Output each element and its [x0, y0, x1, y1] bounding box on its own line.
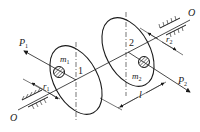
- spacing-ext-left: [100, 98, 122, 110]
- radius-r2-label: r2: [166, 34, 173, 45]
- rotor-diagram: O O 1 2 P1 m1 r1 P2 m2 r2 l: [0, 0, 200, 132]
- force-p1-arrow: [24, 51, 76, 80]
- mass-1: [54, 67, 65, 78]
- r2-dimension: [140, 28, 183, 55]
- spacing-l-label: l: [139, 89, 142, 100]
- radius-r1-label: r1: [43, 81, 50, 92]
- disc-1-number: 1: [78, 65, 83, 76]
- axis-label-right: O: [188, 7, 195, 18]
- mass-2: [139, 57, 150, 68]
- force-p2-label: P2: [177, 75, 187, 87]
- disc-2-number: 2: [129, 37, 134, 48]
- mass-2-label: m2: [132, 71, 142, 82]
- mass-1-label: m1: [60, 54, 70, 65]
- axis-label-left: O: [10, 112, 17, 123]
- shaft-axis: [18, 20, 190, 110]
- force-p1-label: P1: [18, 37, 28, 49]
- r1-dimension: [23, 79, 60, 99]
